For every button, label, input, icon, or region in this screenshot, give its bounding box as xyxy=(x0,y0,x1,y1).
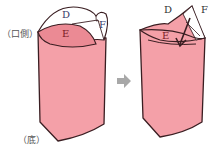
mouth-side-label: （口側） xyxy=(2,27,38,40)
right-cup-figure xyxy=(140,6,205,137)
right-region-f-label: F xyxy=(201,4,208,15)
right-region-e-label: E xyxy=(162,30,169,41)
left-region-f-label: F xyxy=(99,19,106,30)
bottom-label: （底） xyxy=(18,133,45,146)
left-region-e-label: E xyxy=(62,28,69,39)
diagram-canvas xyxy=(0,0,218,154)
left-cup-figure xyxy=(38,7,108,141)
left-region-d-label: D xyxy=(62,9,70,20)
right-region-d-label: D xyxy=(164,4,172,15)
right-arrow-icon xyxy=(117,74,131,88)
